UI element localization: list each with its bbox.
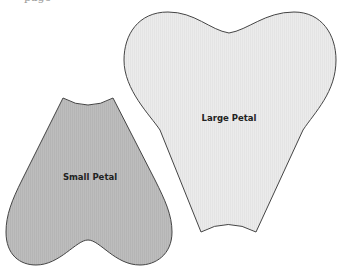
small-petal-label: Small Petal <box>63 172 117 182</box>
petal-templates-diagram: Large Petal Small Petal <box>0 0 344 270</box>
large-petal-label: Large Petal <box>202 113 257 123</box>
small-petal: Small Petal <box>6 98 172 265</box>
